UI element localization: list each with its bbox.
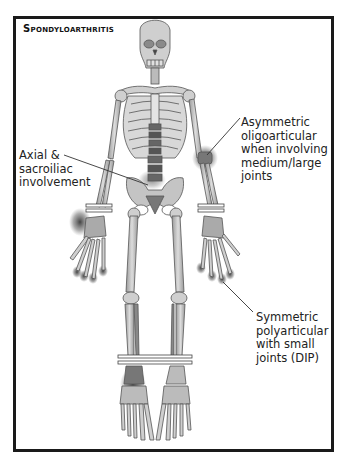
- leader-line-symmetric: [223, 282, 253, 312]
- left-foot: [156, 366, 191, 440]
- figure-title: Spondyloarthritis: [23, 23, 114, 34]
- annotation-axial: Axial & sacroiliac involvement: [19, 149, 90, 190]
- skeleton-illustration: [0, 0, 342, 459]
- leader-line-asymmetric: [207, 118, 240, 155]
- left-hand: [201, 216, 240, 279]
- annotation-asymmetric: Asymmetric oligoarticular when involving…: [241, 116, 328, 184]
- right-arm: [96, 90, 127, 207]
- skull: [140, 20, 170, 68]
- skeleton: [70, 20, 240, 440]
- right-leg: [123, 208, 140, 356]
- annotation-symmetric: Symmetric polyarticular with small joint…: [256, 311, 328, 365]
- right-foot: [120, 366, 154, 440]
- ankle-markers: [118, 355, 192, 364]
- left-leg: [170, 208, 187, 356]
